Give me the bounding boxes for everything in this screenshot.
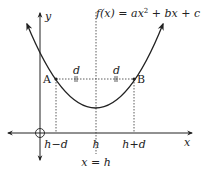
parabola-diagram: A B d d y x h−d h h+d x = h f(x) = ax2 +…: [0, 0, 202, 172]
x-axis-label: x: [184, 136, 191, 149]
label-d-left: d: [73, 64, 80, 77]
label-d-right: d: [113, 64, 120, 77]
tick-label-h: h: [92, 138, 99, 151]
label-A: A: [42, 73, 52, 86]
point-B: [132, 77, 135, 80]
tick-label-h-plus-d: h+d: [122, 138, 145, 151]
tick-label-h-minus-d: h−d: [44, 138, 67, 151]
label-B: B: [137, 73, 145, 86]
point-A: [54, 77, 57, 80]
function-label: f(x) = ax2 + bx + c: [95, 7, 200, 20]
parabola-curve: [27, 24, 163, 108]
y-axis-label: y: [44, 10, 52, 23]
axis-of-symmetry-label: x = h: [81, 156, 111, 169]
